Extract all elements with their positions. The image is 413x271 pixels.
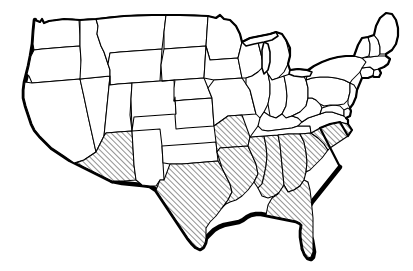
state-new-mexico[interactable] [132,129,164,186]
lake-michigan [262,42,270,74]
state-oklahoma[interactable] [162,142,218,164]
state-kansas[interactable] [174,97,214,129]
state-texas[interactable] [156,161,232,249]
state-oregon[interactable] [27,46,82,83]
state-south-dakota[interactable] [161,46,206,81]
state-minnesota[interactable] [206,15,242,60]
us-map-figure [0,0,413,271]
us-map-svg [0,0,413,271]
state-washington[interactable] [33,19,80,50]
state-massachusetts[interactable] [362,56,390,70]
state-colorado[interactable] [131,80,176,131]
state-wyoming[interactable] [108,49,162,85]
state-north-dakota[interactable] [164,15,208,49]
